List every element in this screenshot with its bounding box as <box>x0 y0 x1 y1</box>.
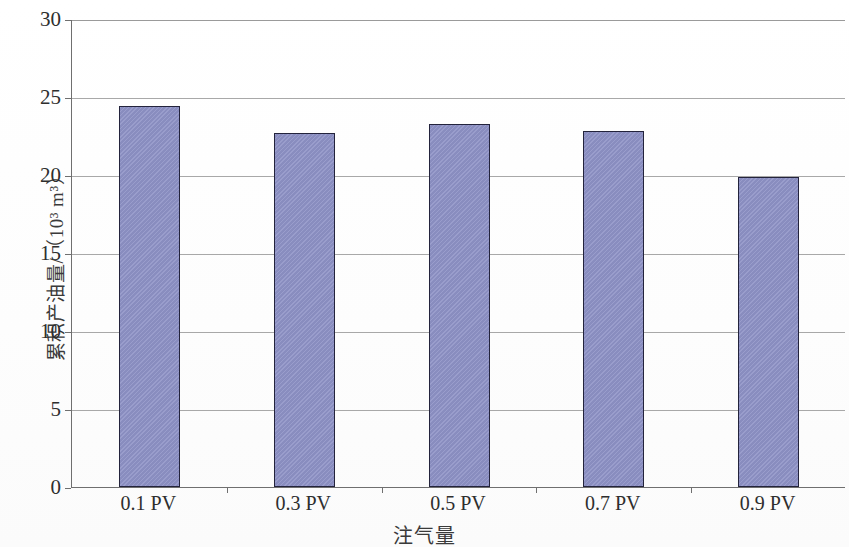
y-axis-tick-label: 0 <box>21 477 61 498</box>
bar <box>429 124 490 487</box>
x-axis-tick-mark <box>227 487 228 493</box>
x-axis-category-label: 0.7 PV <box>543 493 683 513</box>
bar <box>738 177 799 487</box>
x-axis-category-label: 0.5 PV <box>388 493 528 513</box>
x-axis-title: 注气量 <box>0 520 849 547</box>
y-axis-tick-label: 5 <box>21 399 61 420</box>
bar <box>119 106 180 487</box>
x-axis-tick-mark <box>691 487 692 493</box>
plot-area <box>71 20 845 488</box>
bar <box>583 131 644 487</box>
y-axis-tick-label: 25 <box>21 87 61 108</box>
y-axis-tick-label: 20 <box>21 165 61 186</box>
x-axis-category-label: 0.1 PV <box>78 493 218 513</box>
x-axis-category-label: 0.3 PV <box>233 493 373 513</box>
x-axis-tick-mark <box>382 487 383 493</box>
x-axis-category-label: 0.9 PV <box>698 493 838 513</box>
x-axis-tick-mark <box>536 487 537 493</box>
bar-chart: 累积产油量/（10³ m³） 051015202530 0.1 PV0.3 PV… <box>0 0 849 547</box>
bar <box>274 133 335 487</box>
y-axis-tick-label: 10 <box>21 321 61 342</box>
y-axis-tick-label: 15 <box>21 243 61 264</box>
y-axis-tick-mark <box>65 488 71 489</box>
y-axis-tick-label: 30 <box>21 9 61 30</box>
bars-layer <box>72 20 845 487</box>
